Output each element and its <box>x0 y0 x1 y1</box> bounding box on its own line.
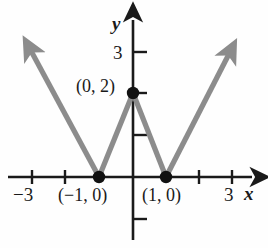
function-curve <box>30 49 230 177</box>
annotation-y-intercept: (0, 2) <box>76 77 115 95</box>
y-axis-label: y <box>112 14 120 33</box>
x-axis-label: x <box>244 184 254 203</box>
plot-canvas <box>0 0 268 248</box>
graph-figure: y x 3 −3 3 (−1, 0) (1, 0) (0, 2) <box>0 0 268 248</box>
annotation-vertex-left: (−1, 0) <box>58 186 107 204</box>
point-vertex-right <box>160 171 172 183</box>
y-tick-label-3: 3 <box>113 43 123 62</box>
x-tick-label-3: 3 <box>224 185 234 204</box>
point-vertex-left <box>93 171 105 183</box>
curve-left-branch <box>30 49 99 177</box>
annotation-vertex-right: (1, 0) <box>142 186 181 204</box>
curve-middle-left <box>99 93 133 177</box>
point-y-intercept <box>127 87 139 99</box>
curve-right-branch <box>166 52 230 177</box>
x-tick-label-neg3: −3 <box>13 185 33 204</box>
